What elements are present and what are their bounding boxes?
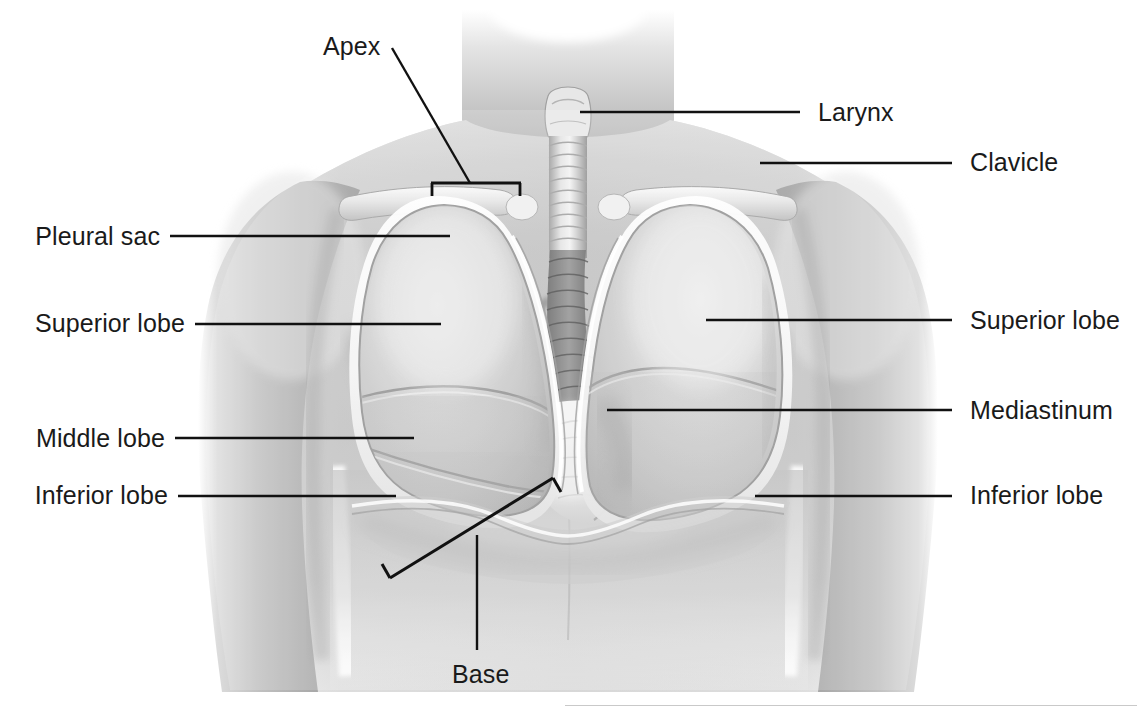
- label-mediastinum: Mediastinum: [970, 398, 1113, 423]
- anatomy-figure: Apex Larynx Clavicle Pleural sac Superio…: [0, 0, 1137, 715]
- label-clavicle: Clavicle: [970, 150, 1058, 175]
- label-apex: Apex: [323, 34, 380, 59]
- footer-rule: [565, 705, 1137, 706]
- label-superior-lobe-right: Superior lobe: [970, 308, 1120, 333]
- thorax-illustration: [0, 0, 1137, 715]
- label-middle-lobe: Middle lobe: [0, 426, 165, 451]
- label-inferior-lobe-left: Inferior lobe: [0, 483, 168, 508]
- label-pleural-sac: Pleural sac: [0, 224, 160, 249]
- label-larynx: Larynx: [818, 100, 894, 125]
- label-inferior-lobe-right: Inferior lobe: [970, 483, 1103, 508]
- label-superior-lobe-left: Superior lobe: [0, 311, 185, 336]
- label-base: Base: [452, 662, 509, 687]
